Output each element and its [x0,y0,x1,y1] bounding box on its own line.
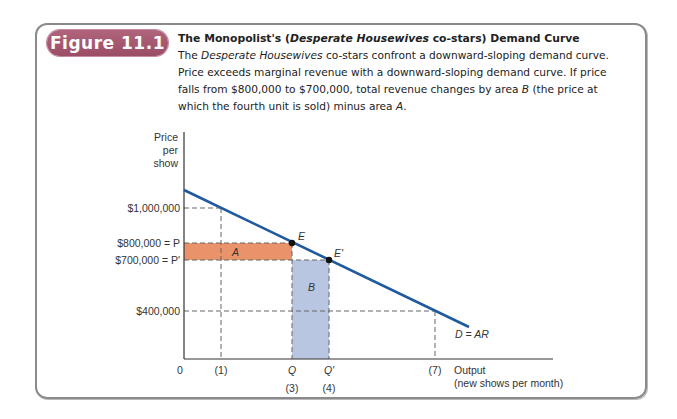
x-tick-q: Q [288,364,296,376]
x-tick-4: (4) [323,382,336,394]
point-e-prime [326,257,332,263]
y-tick-400000: $400,000 [136,305,180,317]
y-axis-label-1: Price [154,131,178,143]
y-axis-label-3: show [153,157,178,169]
x-tick-3: (3) [286,382,299,394]
y-axis-label-2: per [163,144,179,156]
y-tick-800000: $800,000 = P [117,237,180,249]
label-e-prime: E' [334,247,344,259]
y-tick-1000000: $1,000,000 [127,202,180,214]
x-tick-q-prime: Q' [324,364,335,376]
label-demand-curve: D = AR [455,328,489,340]
x-axis-label-2: (new shows per month) [454,377,563,389]
point-e [289,240,295,246]
label-e: E [298,230,306,242]
x-axis-label-1: Output [454,364,486,376]
label-area-b: B [308,281,315,293]
area-b [292,260,329,359]
y-tick-700000: $700,000 = P' [115,254,180,266]
label-area-a: A [231,246,239,258]
x-tick-1: (1) [215,364,228,376]
x-tick-0: 0 [177,364,183,376]
demand-chart: Price per show $1,000,000 $800,000 = P $… [0,0,677,419]
x-tick-7: (7) [429,364,442,376]
